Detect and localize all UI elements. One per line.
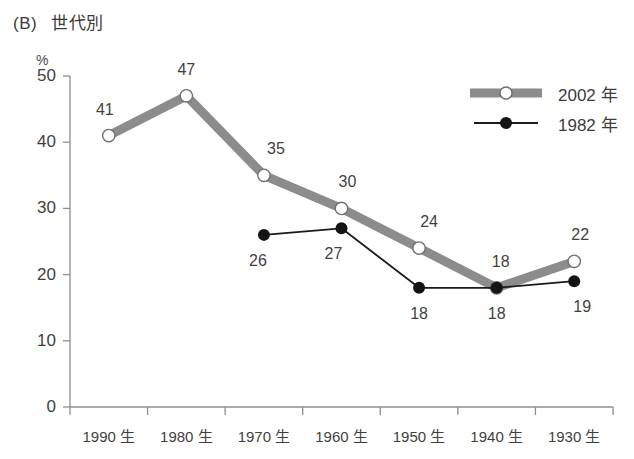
- x-axis-tick-label: 1980 生: [143, 425, 229, 446]
- x-axis-tick-label: 1960 生: [299, 425, 385, 446]
- y-axis-tick-0: 0: [22, 397, 56, 417]
- x-axis-tick-label: 1930 生: [531, 425, 617, 446]
- y-axis-tick-10: 10: [22, 331, 56, 351]
- x-axis-tick-label: 1940 生: [454, 425, 540, 446]
- data-point-label: 41: [96, 101, 114, 119]
- legend-label-1982: 1982 年: [558, 111, 618, 136]
- y-axis-tick-30: 30: [22, 198, 56, 218]
- legend-item-1982: 1982 年: [468, 108, 618, 138]
- y-axis-tick-50: 50: [22, 66, 56, 86]
- legend-item-2002: 2002 年: [468, 78, 618, 108]
- x-axis-tick-label: 1950 生: [376, 425, 462, 446]
- data-point-label: 47: [177, 61, 195, 79]
- y-axis-tick-40: 40: [22, 132, 56, 152]
- line-chart-plot: [0, 0, 634, 459]
- legend-swatch-open-circle-icon: [468, 82, 544, 104]
- y-axis-tick-20: 20: [22, 265, 56, 285]
- data-point-label: 19: [573, 298, 591, 316]
- data-point-label: 24: [420, 213, 438, 231]
- chart-container: (B)世代別 % 01020304050 1990 生1980 生1970 生1…: [0, 0, 634, 459]
- legend-label-2002: 2002 年: [558, 81, 618, 106]
- x-axis-tick-label: 1990 生: [66, 425, 152, 446]
- data-point-label: 18: [410, 305, 428, 323]
- data-point-label: 22: [571, 226, 589, 244]
- chart-legend: 2002 年 1982 年: [468, 78, 618, 138]
- data-point-label: 18: [492, 253, 510, 271]
- x-axis-tick-label: 1970 生: [221, 425, 307, 446]
- data-point-label: 30: [339, 173, 357, 191]
- data-point-label: 18: [488, 305, 506, 323]
- data-point-label: 26: [249, 252, 267, 270]
- legend-swatch-filled-circle-icon: [468, 112, 544, 134]
- data-point-label: 27: [325, 245, 343, 263]
- data-point-label: 35: [267, 140, 285, 158]
